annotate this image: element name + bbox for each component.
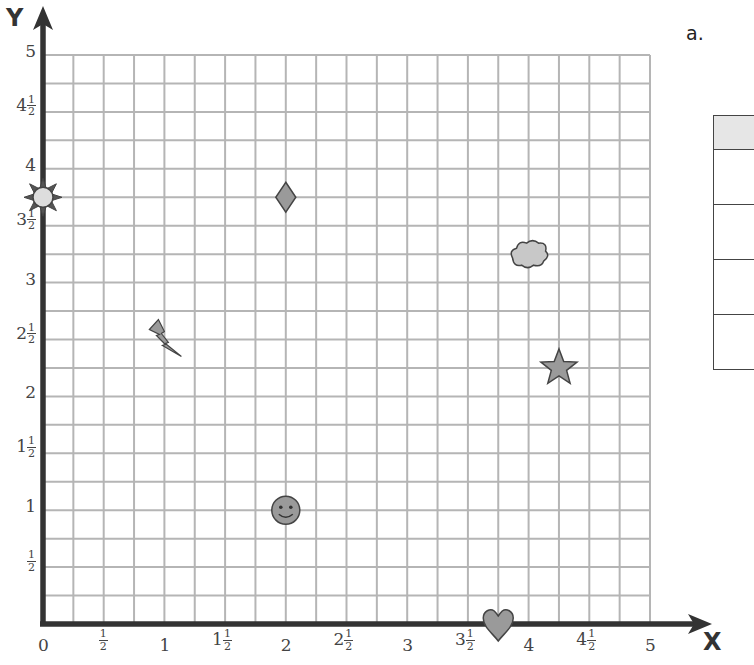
x-axis-name: X <box>703 628 722 656</box>
x-tick-label: 5 <box>645 637 656 654</box>
y-tick-label: 1 <box>25 498 36 515</box>
x-tick-label: 2 <box>281 637 292 654</box>
x-tick-label: 1 <box>159 637 170 654</box>
y-tick-label: 3 <box>25 271 36 288</box>
x-tick-label: 3 <box>402 637 413 654</box>
y-tick-label: 212 <box>16 322 36 346</box>
x-tick-label: 412 <box>576 628 596 652</box>
x-tick-label: 312 <box>455 628 475 652</box>
y-tick-label: 412 <box>16 94 36 118</box>
table-row[interactable] <box>714 150 754 205</box>
cloud-icon <box>511 241 547 268</box>
y-tick-label: 312 <box>16 208 36 232</box>
plotted-shapes <box>24 178 577 641</box>
sun-icon <box>33 187 53 207</box>
diamond-icon <box>276 182 296 212</box>
x-tick-label: 0 <box>38 637 49 654</box>
smiley-eye-icon <box>279 505 283 509</box>
y-tick-label: 2 <box>25 384 36 401</box>
x-tick-label: 12 <box>99 628 108 652</box>
x-tick-label: 4 <box>524 637 535 654</box>
grid-lines <box>43 55 650 624</box>
y-tick-label: 5 <box>25 43 36 60</box>
smiley-icon <box>272 496 300 524</box>
answer-table <box>713 115 754 370</box>
y-tick-label: 12 <box>27 549 36 573</box>
table-row[interactable] <box>714 315 754 369</box>
smiley-eye-icon <box>289 505 293 509</box>
x-tick-label: 112 <box>212 628 232 652</box>
y-tick-label: 4 <box>25 157 36 174</box>
x-tick-label: 212 <box>334 628 354 652</box>
table-row[interactable] <box>714 260 754 315</box>
table-row[interactable] <box>714 205 754 260</box>
table-header <box>714 116 754 150</box>
y-axis-name: Y <box>6 4 23 32</box>
y-tick-label: 112 <box>16 435 36 459</box>
part-label: a. <box>686 22 704 44</box>
